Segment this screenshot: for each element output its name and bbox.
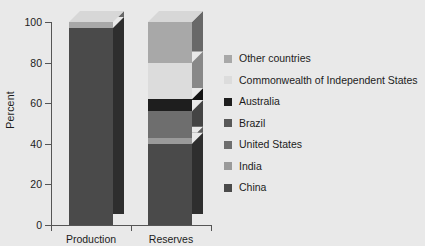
legend-label: India [239,161,262,172]
bar-top-face [69,11,124,22]
y-axis-tick-label-wrap: 0 [0,220,51,230]
y-axis-tick-label: 20 [2,179,51,189]
legend-label: Brazil [239,118,265,129]
bar-segment-side [192,88,203,100]
bar-segment-side [192,133,203,214]
y-axis-tick-label-wrap: 80 [0,58,51,68]
x-axis-tick [131,225,132,231]
legend-item[interactable]: China [224,177,422,199]
chart-legend: Other countriesCommonwealth of Independe… [224,48,422,199]
legend-item[interactable]: Other countries [224,48,422,70]
bar-segment-other-countries[interactable] [148,22,192,63]
legend-label: United States [239,139,302,150]
legend-label: Other countries [239,53,311,64]
legend-label: China [239,182,266,193]
y-axis-tick-label: 100 [2,17,51,27]
legend-swatch-icon [224,55,232,63]
y-axis-line [51,22,52,225]
bar-segment-other-countries[interactable] [69,22,113,28]
legend-item[interactable]: Brazil [224,113,422,135]
stacked-bar-chart: 020406080100 Percent ProductionReserves … [0,0,425,246]
legend-item[interactable]: Commonwealth of Independent States [224,70,422,92]
bar-column-reserves[interactable] [148,0,203,246]
legend-item[interactable]: United States [224,134,422,156]
legend-label: Commonwealth of Independent States [239,75,418,86]
legend-swatch-icon [224,98,232,106]
y-axis-tick-label: 0 [2,220,51,230]
bar-segment-side [192,100,203,126]
x-axis-tick [51,225,52,231]
bar-segment-china[interactable] [69,28,113,225]
y-axis-tick-label-wrap: 100 [0,17,51,27]
bar-column-production[interactable] [69,0,124,246]
bar-segment-india[interactable] [148,138,192,144]
bar-segment-side [192,127,203,133]
x-axis-label-reserves: Reserves [131,233,211,245]
y-axis-tick-label: 80 [2,58,51,68]
bar-segment-united-states[interactable] [148,111,192,137]
bar-segment-side [192,52,203,89]
bar-segment-side [113,17,124,214]
bar-segment-commonwealth-of-independent-states[interactable] [148,63,192,100]
x-axis-label-production: Production [51,233,131,245]
legend-swatch-icon [224,162,232,170]
legend-swatch-icon [224,76,232,84]
legend-swatch-icon [224,119,232,127]
y-axis-tick-label-wrap: 20 [0,179,51,189]
legend-item[interactable]: India [224,156,422,178]
legend-swatch-icon [224,141,232,149]
legend-item[interactable]: Australia [224,91,422,113]
x-axis-tick [211,225,212,231]
bar-segment-china[interactable] [148,144,192,225]
y-axis-title: Percent [4,79,16,141]
legend-label: Australia [239,96,280,107]
legend-swatch-icon [224,184,232,192]
bar-segment-australia[interactable] [148,99,192,111]
